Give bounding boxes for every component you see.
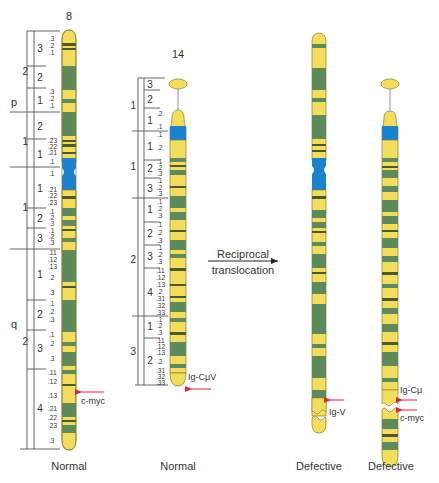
sub-band: .2 — [157, 229, 163, 236]
sub-band: .3 — [49, 289, 55, 296]
sub-band: .13 — [156, 281, 165, 288]
sub-band: .13 — [48, 263, 57, 270]
band-p13: 3 — [147, 79, 153, 90]
sub-band: .1 — [49, 158, 55, 165]
sub-band: .1 — [49, 331, 55, 338]
sub-band: .1 — [49, 300, 55, 307]
band-q11: 1 — [37, 183, 43, 194]
band-q22: 2 — [147, 228, 153, 239]
sub-band: .33 — [156, 309, 165, 316]
caption-normal-14: Normal — [160, 460, 195, 472]
sub-band: .2 — [157, 251, 163, 258]
chromosome-number-14: 14 — [172, 48, 184, 60]
sub-band: .2 — [49, 95, 55, 102]
sub-band: .2 — [49, 340, 55, 347]
sub-band: .3 — [49, 316, 55, 323]
sub-band-labels-8: .3 .2 .1 .3 .2 .1 .23 .22 .21 .1 .1 .21 … — [48, 35, 57, 444]
caption-normal-8: Normal — [51, 460, 86, 472]
sub-band: .2 — [157, 322, 163, 329]
sub-band: .1 — [157, 221, 163, 228]
region-q2: 2 — [22, 336, 28, 347]
reciprocal-translocation-arrow: Reciprocal translocation — [208, 248, 278, 276]
sub-band: .2 — [49, 308, 55, 315]
sub-band: .2 — [157, 358, 163, 365]
gene-label-ig-v: Ig-V — [329, 407, 346, 417]
sub-band: .1 — [157, 123, 163, 130]
sub-band: .11 — [156, 267, 165, 274]
band-p12: 2 — [37, 121, 43, 132]
sub-band: .12 — [156, 274, 165, 281]
band-q24: 4 — [147, 287, 153, 298]
region-p2: 2 — [22, 66, 28, 77]
band-p11: 1 — [37, 149, 43, 160]
sub-band: .3 — [49, 239, 55, 246]
sub-band-labels-14: .2 .1 .1 .2 .1 .2 .3 .1 .2 .3 .1 .2 .3 .… — [156, 110, 165, 386]
band-p11: 1 — [147, 115, 153, 126]
sub-band: .22 — [48, 414, 57, 421]
chromosome-14-normal: 14 — [130, 48, 216, 472]
chromosome-number-8: 8 — [66, 10, 72, 22]
gene-label-ig-cmuv: Ig-CμV — [188, 372, 216, 382]
band-p21: 1 — [37, 95, 43, 106]
sub-band: .1 — [49, 49, 55, 56]
band-q13: 3 — [37, 233, 43, 244]
band-q22: 2 — [37, 309, 43, 320]
sub-band: .3 — [157, 212, 163, 219]
sub-band: .2 — [157, 288, 163, 295]
sub-band: .23 — [48, 199, 57, 206]
gene-label-c-myc-defective: c-myc — [400, 413, 424, 423]
caption-defective-14: Defective — [368, 460, 414, 472]
sub-band: .13 — [48, 392, 57, 399]
chromosome-14-defective: Ig-Cμ c-myc Defective — [368, 79, 424, 472]
sub-band: .1 — [49, 102, 55, 109]
ig-cmuv-marker-14: Ig-CμV — [188, 372, 216, 389]
sub-band: .3 — [157, 237, 163, 244]
sub-band: .3 — [49, 437, 55, 444]
band-p22: 2 — [37, 72, 43, 83]
sub-band: .22 — [48, 192, 57, 199]
band-q32: 2 — [147, 355, 153, 366]
sub-band: .13 — [156, 349, 165, 356]
region-p1: 1 — [22, 136, 28, 147]
region-p1: 1 — [130, 100, 136, 111]
chromosome-8-defective: Ig-V Defective — [296, 33, 345, 472]
chromosome-8-defective-ideogram — [312, 33, 326, 433]
sub-band: .1 — [157, 198, 163, 205]
band-q31: 1 — [147, 321, 153, 332]
sub-band: .33 — [156, 379, 165, 386]
sub-band: .1 — [157, 131, 163, 138]
sub-band: .3 — [49, 35, 55, 42]
sub-band: .21 — [48, 405, 57, 412]
band-q13: 3 — [147, 183, 153, 194]
band-q11: 1 — [147, 141, 153, 152]
sub-band: .12 — [48, 256, 57, 263]
sub-band: .3 — [49, 220, 55, 227]
process-label-line2: translocation — [212, 264, 274, 276]
band-q24: 4 — [37, 403, 43, 414]
sub-band: .3 — [157, 190, 163, 197]
chromosome-14-defective-ideogram — [381, 79, 399, 467]
sub-band: .1 — [157, 177, 163, 184]
band-q12: 2 — [147, 163, 153, 174]
sub-band: .2 — [157, 205, 163, 212]
caption-defective-8: Defective — [296, 460, 342, 472]
sub-band: .2 — [157, 110, 163, 117]
arm-label-p: p — [11, 96, 17, 108]
sub-band: .3 — [157, 329, 163, 336]
region-q2: 2 — [130, 254, 136, 265]
gene-label-c-myc: c-myc — [81, 396, 105, 406]
band-q21: 1 — [37, 269, 43, 280]
sub-band: .2 — [49, 274, 55, 281]
sub-band: .32 — [156, 302, 165, 309]
sub-band: .11 — [48, 249, 57, 256]
band-q23: 3 — [147, 251, 153, 262]
sub-band: .1 — [49, 170, 55, 177]
translocation-diagram: 8 — [0, 0, 439, 483]
c-myc-marker-defective: c-myc — [400, 410, 424, 423]
band-p12: 2 — [147, 94, 153, 105]
sub-band: .12 — [48, 378, 57, 385]
band-p23: 3 — [37, 43, 43, 54]
sub-band: .3 — [49, 355, 55, 362]
band-q12: 2 — [37, 213, 43, 224]
sub-band: .21 — [48, 149, 57, 156]
